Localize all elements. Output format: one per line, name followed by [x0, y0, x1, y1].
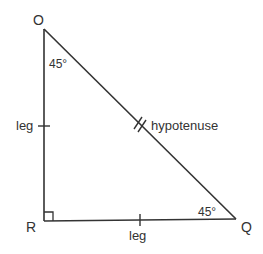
vertex-label-R: R	[26, 219, 36, 235]
vertex-label-Q: Q	[241, 219, 252, 235]
angle-label-O: 45°	[49, 57, 67, 71]
side-label-hypotenuse: hypotenuse	[151, 118, 218, 133]
angle-label-Q: 45°	[198, 205, 216, 219]
side-label-leg-RQ: leg	[129, 228, 146, 243]
side-label-leg-OR: leg	[16, 118, 33, 133]
right-angle-marker	[44, 212, 53, 221]
vertex-label-O: O	[33, 12, 44, 28]
triangle-diagram: O R Q 45° 45° leg leg hypotenuse	[0, 0, 263, 254]
